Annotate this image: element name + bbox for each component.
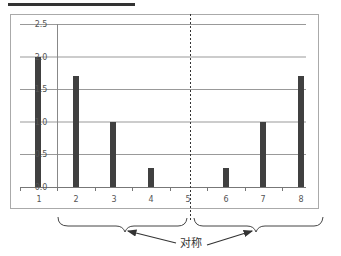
bar-7 — [260, 122, 266, 187]
svg-text:1.5: 1.5 — [35, 85, 48, 94]
svg-text:0.5: 0.5 — [35, 150, 48, 159]
symmetry-bar-chart: 2.5 2.0 1.5 1.0 0.5 0.0 1 2 3 4 5 6 7 8 … — [0, 0, 341, 256]
symmetry-label: 对称 — [180, 236, 202, 250]
svg-text:8: 8 — [298, 195, 303, 204]
x-tick-labels: 1 2 3 4 5 6 7 8 — [36, 195, 303, 204]
bar-8 — [298, 76, 304, 187]
left-arrow-icon — [128, 231, 176, 243]
right-arrow-icon — [207, 231, 252, 245]
svg-text:4: 4 — [148, 195, 153, 204]
bar-2 — [73, 76, 79, 187]
svg-text:1.0: 1.0 — [35, 118, 48, 127]
svg-text:0.0: 0.0 — [35, 183, 48, 192]
svg-text:5: 5 — [185, 195, 190, 204]
right-brace — [194, 217, 323, 232]
svg-text:6: 6 — [223, 195, 228, 204]
svg-text:1: 1 — [36, 195, 41, 204]
bar-3 — [110, 122, 116, 187]
svg-text:3: 3 — [111, 195, 116, 204]
left-brace — [58, 217, 187, 232]
svg-text:2.0: 2.0 — [35, 53, 48, 62]
svg-text:7: 7 — [260, 195, 265, 204]
bar-6 — [223, 168, 229, 187]
svg-text:2.5: 2.5 — [35, 20, 48, 29]
svg-text:2: 2 — [73, 195, 78, 204]
bar-4 — [148, 168, 154, 187]
